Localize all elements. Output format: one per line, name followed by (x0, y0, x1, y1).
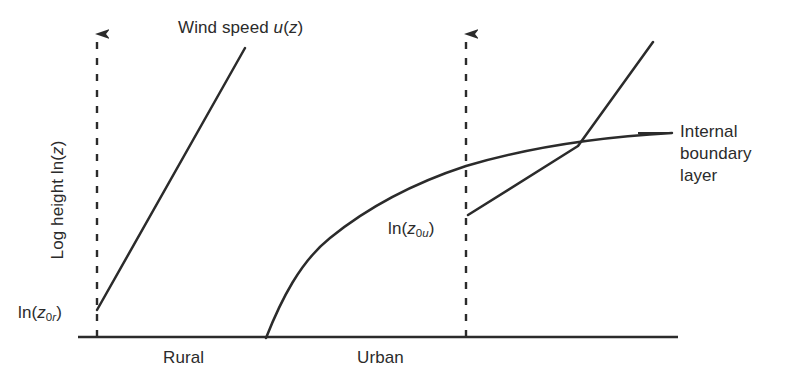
rural-wind-profile-line (97, 48, 245, 310)
ibl-label-line-3: layer (680, 166, 717, 185)
wind-speed-title-label: Wind speed u(z) (178, 17, 303, 39)
rural-roughness-length-label: ln(z0r) (18, 302, 62, 324)
internal-boundary-layer-curve (266, 133, 672, 338)
ibl-label-line-1: Internal (680, 122, 738, 141)
diagram-canvas (0, 0, 809, 387)
wind-profile-diagram: Wind speed u(z) Log height ln(z) ln(z0r)… (0, 0, 809, 387)
rural-region-label: Rural (163, 347, 204, 369)
urban-wind-profile-line (468, 42, 653, 215)
ibl-label-line-2: boundary (680, 144, 752, 163)
urban-region-label: Urban (357, 347, 404, 369)
internal-boundary-layer-label: Internal boundary layer (680, 121, 752, 186)
urban-roughness-length-label: ln(z0u) (388, 218, 435, 240)
y-axis-label: Log height ln(z) (47, 141, 69, 260)
